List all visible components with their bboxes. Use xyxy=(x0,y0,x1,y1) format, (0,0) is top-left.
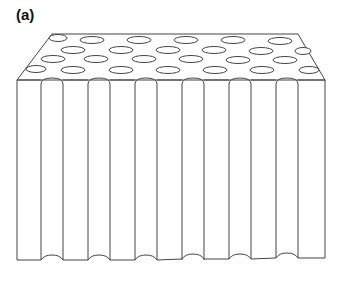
monolith-diagram xyxy=(0,0,340,281)
channels xyxy=(41,78,298,260)
